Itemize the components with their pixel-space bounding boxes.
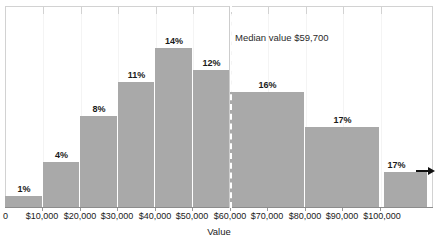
bar-label-6: 16%: [230, 80, 305, 90]
xtick-label-6: $60,000: [214, 211, 247, 221]
bar-label-0: 1%: [5, 184, 43, 194]
bar-1[interactable]: [43, 162, 80, 208]
xtick-label-8: $80,000: [289, 211, 322, 221]
bar-3[interactable]: [118, 82, 155, 208]
xtick-label-4: $40,000: [139, 211, 172, 221]
bar-2[interactable]: [80, 116, 118, 208]
bar-label-3: 11%: [118, 70, 155, 80]
xtick-label-2: $20,000: [64, 211, 97, 221]
bar-series: 1% 4% 8% 11% 14% 12% 16% 17% 17%: [5, 6, 433, 208]
bar-5[interactable]: [193, 70, 230, 208]
x-axis-title: Value: [0, 226, 438, 237]
overflow-arrow-icon: [428, 167, 435, 175]
xtick-label-5: $50,000: [176, 211, 209, 221]
median-label: Median value $59,700: [235, 32, 329, 43]
xtick-label-3: $30,000: [101, 211, 134, 221]
xtick-label-10: $100,000: [363, 211, 401, 221]
bar-8[interactable]: [384, 172, 427, 208]
xtick-label-1: $10,000: [26, 211, 59, 221]
histogram-chart: 1% 4% 8% 11% 14% 12% 16% 17% 17% Median …: [0, 0, 438, 238]
xtick-label-7: $70,000: [251, 211, 284, 221]
bar-label-8: 17%: [375, 160, 418, 170]
xtick-label-0: 0: [3, 211, 8, 221]
bar-label-1: 4%: [43, 150, 80, 160]
x-axis-line: [5, 207, 433, 208]
bar-4[interactable]: [155, 48, 193, 208]
bar-label-5: 12%: [193, 58, 230, 68]
bar-7[interactable]: [305, 127, 380, 208]
bar-label-7: 17%: [305, 115, 380, 125]
bar-label-2: 8%: [80, 104, 118, 114]
bar-label-4: 14%: [155, 36, 193, 46]
clipped-caption: [0, 0, 438, 4]
median-line: [230, 6, 232, 208]
bar-6[interactable]: [230, 92, 305, 208]
xtick-label-9: $90,000: [326, 211, 359, 221]
